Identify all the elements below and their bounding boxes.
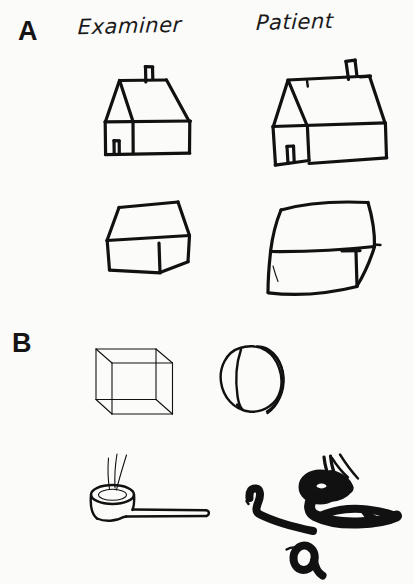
panel-label-a: A: [18, 18, 38, 45]
figure-canvas: A Examiner Patient: [0, 0, 414, 584]
wireframe-cube-drawing: [82, 336, 192, 426]
column-heading-examiner: Examiner: [77, 13, 182, 40]
column-heading-patient: Patient: [255, 9, 334, 35]
box-drawing: [88, 188, 208, 288]
pipe-drawing: [78, 446, 218, 546]
panel-label-b: B: [12, 330, 32, 357]
blob-drawing-copy: [212, 334, 307, 424]
house-drawing: [88, 60, 208, 175]
scribble-drawing-copy: [236, 444, 411, 579]
box-drawing-copy: [256, 182, 406, 302]
house-drawing-copy: [252, 54, 407, 179]
